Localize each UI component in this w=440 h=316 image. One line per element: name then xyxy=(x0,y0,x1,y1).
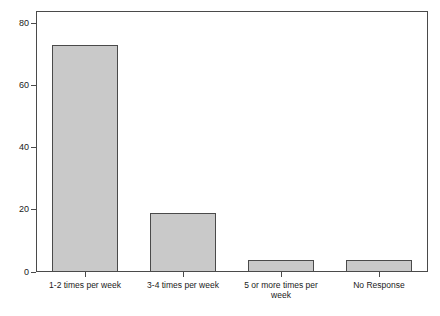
x-axis-tick: 1-2 times per week xyxy=(41,272,129,290)
y-axis-tick-label: 60 xyxy=(19,81,31,90)
x-axis: 1-2 times per week3-4 times per week5 or… xyxy=(0,272,440,316)
y-axis: 020406080 xyxy=(0,0,36,316)
x-axis-tick: No Response xyxy=(335,272,423,290)
bar[interactable] xyxy=(248,260,314,272)
bar-chart: 020406080 1-2 times per week3-4 times pe… xyxy=(0,0,440,316)
bar[interactable] xyxy=(346,260,412,272)
x-axis-tick-label: No Response xyxy=(335,280,423,290)
y-axis-tick-mark xyxy=(31,85,36,86)
bar[interactable] xyxy=(52,45,118,272)
y-axis-tick-mark xyxy=(31,23,36,24)
bar[interactable] xyxy=(150,213,216,272)
x-axis-tick-label: 3-4 times per week xyxy=(139,280,227,290)
x-axis-tick: 5 or more times per week xyxy=(237,272,325,300)
x-axis-tick-mark xyxy=(281,272,282,277)
x-axis-tick-mark xyxy=(379,272,380,277)
y-axis-tick-mark xyxy=(31,209,36,210)
y-axis-tick-mark xyxy=(31,147,36,148)
x-axis-tick-label: 1-2 times per week xyxy=(41,280,129,290)
y-axis-tick-label: 20 xyxy=(19,205,31,214)
x-axis-tick: 3-4 times per week xyxy=(139,272,227,290)
y-axis-tick-label: 80 xyxy=(19,19,31,28)
x-axis-tick-mark xyxy=(183,272,184,277)
x-axis-tick-mark xyxy=(85,272,86,277)
y-axis-tick-label: 40 xyxy=(19,143,31,152)
x-axis-tick-label: 5 or more times per week xyxy=(237,280,325,300)
